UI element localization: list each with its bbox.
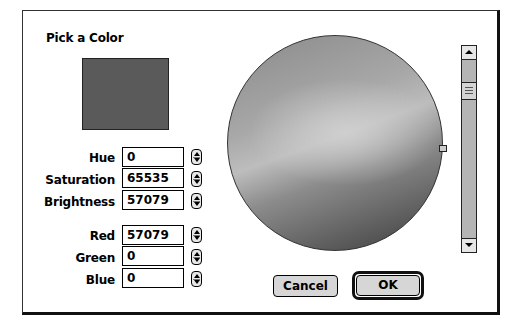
saturation-stepper[interactable]	[191, 171, 202, 187]
grip-line	[465, 93, 473, 94]
saturation-label: Saturation	[45, 173, 115, 187]
color-swatch	[82, 58, 169, 130]
brightness-input[interactable]	[122, 190, 184, 210]
blue-input[interactable]	[122, 268, 184, 288]
scroll-thumb[interactable]	[462, 82, 476, 100]
green-label: Green	[75, 251, 115, 265]
stepper-up-icon[interactable]	[194, 152, 200, 156]
red-input[interactable]	[122, 225, 184, 245]
stepper-down-icon[interactable]	[194, 202, 200, 206]
stepper-up-icon[interactable]	[194, 252, 200, 256]
stepper-down-icon[interactable]	[194, 180, 200, 184]
cancel-button[interactable]: Cancel	[273, 275, 338, 297]
stepper-down-icon[interactable]	[194, 158, 200, 162]
brightness-scrollbar[interactable]	[461, 45, 477, 253]
stepper-up-icon[interactable]	[194, 230, 200, 234]
saturation-input[interactable]	[122, 168, 184, 188]
red-stepper[interactable]	[191, 227, 202, 243]
brightness-stepper[interactable]	[191, 193, 202, 209]
hue-stepper[interactable]	[191, 149, 202, 165]
brightness-row: Brightness	[0, 191, 210, 213]
green-stepper[interactable]	[191, 249, 202, 265]
dialog-title: Pick a Color	[46, 31, 123, 45]
green-input[interactable]	[122, 246, 184, 266]
stepper-down-icon[interactable]	[194, 236, 200, 240]
grip-line	[465, 90, 473, 91]
ok-button[interactable]: OK	[356, 275, 420, 296]
scroll-up-button[interactable]	[462, 46, 476, 60]
stepper-up-icon[interactable]	[194, 174, 200, 178]
stepper-down-icon[interactable]	[194, 258, 200, 262]
red-label: Red	[90, 229, 115, 243]
green-row: Green	[0, 247, 210, 269]
blue-row: Blue	[0, 269, 210, 291]
blue-stepper[interactable]	[191, 271, 202, 287]
stepper-up-icon[interactable]	[194, 196, 200, 200]
grip-line	[465, 87, 473, 88]
up-arrow-icon	[465, 50, 473, 54]
hue-label: Hue	[89, 151, 115, 165]
saturation-row: Saturation	[0, 169, 210, 191]
hue-marker-handle[interactable]	[439, 145, 447, 152]
down-arrow-icon	[465, 243, 473, 247]
hue-row: Hue	[0, 147, 210, 169]
blue-label: Blue	[86, 273, 115, 287]
brightness-label: Brightness	[44, 195, 115, 209]
scroll-down-button[interactable]	[462, 238, 476, 252]
stepper-down-icon[interactable]	[194, 280, 200, 284]
color-wheel[interactable]	[227, 35, 443, 251]
red-row: Red	[0, 225, 210, 247]
hue-input[interactable]	[122, 147, 184, 167]
stepper-up-icon[interactable]	[194, 274, 200, 278]
